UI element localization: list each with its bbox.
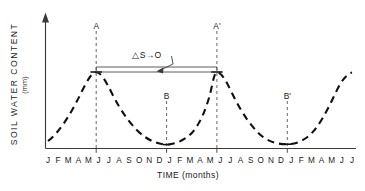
point-labels-group: A B A' B' [93, 21, 291, 101]
x-axis-month-label: J [107, 156, 111, 165]
x-axis-month-label: J [218, 156, 222, 165]
soil-water-curve [48, 72, 352, 145]
x-axis-month-label: S [248, 156, 254, 165]
x-axis-month-label: M [308, 156, 315, 165]
x-axis-month-label: J [97, 156, 101, 165]
x-axis-month-label: M [207, 156, 214, 165]
x-axis-month-label: J [228, 156, 232, 165]
x-axis-month-label: M [328, 156, 335, 165]
delta-s-label: △S→O [132, 50, 161, 60]
axes-group [42, 13, 356, 149]
x-axis-month-label: J [350, 156, 354, 165]
x-axis-month-label: M [85, 156, 92, 165]
x-axis-month-label: A [319, 156, 325, 165]
x-axis-month-label: M [65, 156, 72, 165]
y-axis-title: SOIL WATER CONTENT [9, 23, 19, 146]
x-axis-month-label: A [197, 156, 203, 165]
x-axis-month-label: F [177, 156, 182, 165]
x-axis-month-label: N [268, 156, 274, 165]
x-axis-month-label: J [340, 156, 344, 165]
soil-water-content-chart: △S→O A B A' B' JFMAMJJASONDJFMAMJJASONDJ… [0, 0, 365, 191]
label-point-a: A [93, 21, 99, 31]
x-axis-month-label: F [56, 156, 61, 165]
x-axis-month-label: A [76, 156, 82, 165]
x-axis-month-label: D [278, 156, 284, 165]
y-axis-unit: (mm) [20, 76, 29, 94]
x-axis-month-label: S [126, 156, 132, 165]
x-axis-month-label: J [289, 156, 293, 165]
x-axis-month-label: O [258, 156, 264, 165]
x-tick-marks [96, 149, 287, 153]
label-point-b: B [164, 91, 170, 101]
chart-svg: △S→O A B A' B' JFMAMJJASONDJFMAMJJASONDJ… [0, 0, 365, 191]
x-axis-month-label: M [186, 156, 193, 165]
x-axis-month-label: J [168, 156, 172, 165]
label-point-b-prime: B' [284, 91, 292, 101]
label-point-a-prime: A' [213, 21, 221, 31]
y-axis-title-group: SOIL WATER CONTENT (mm) [9, 23, 29, 146]
reference-lines-group [96, 31, 287, 149]
x-axis-month-label: A [116, 156, 122, 165]
x-axis-month-labels: JFMAMJJASONDJFMAMJJASONDJFMAMJJ [46, 156, 354, 165]
x-axis-month-label: F [299, 156, 304, 165]
y-axis-arrowhead [42, 13, 49, 23]
delta-s-leader-arrowhead [157, 68, 164, 74]
x-axis-month-label: A [238, 156, 244, 165]
x-axis-title: TIME (months) [157, 170, 219, 180]
x-axis-month-label: D [157, 156, 163, 165]
x-axis-month-label: J [46, 156, 50, 165]
x-axis-month-label: O [136, 156, 142, 165]
delta-s-annotation: △S→O [96, 50, 217, 74]
x-axis-month-label: N [146, 156, 152, 165]
